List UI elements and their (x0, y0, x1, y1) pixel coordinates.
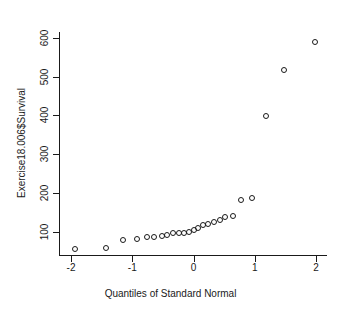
y-tick-label: 300 (39, 146, 50, 163)
data-point (103, 245, 109, 251)
data-point (120, 237, 126, 243)
y-tick-label: 400 (39, 107, 50, 124)
data-point (144, 234, 150, 240)
y-tick-label: 200 (39, 185, 50, 202)
x-tick-label: -1 (128, 262, 137, 273)
data-point (312, 39, 318, 45)
data-point (222, 214, 228, 220)
x-axis-title: Quantiles of Standard Normal (0, 288, 341, 299)
y-tick-mark (53, 115, 59, 116)
x-tick-label: 2 (313, 262, 319, 273)
data-point (164, 232, 170, 238)
qq-plot-figure: 100200300400500600 -2-1012 Exercise18.00… (0, 0, 341, 313)
y-tick-mark (53, 38, 59, 39)
y-axis-line (59, 32, 60, 256)
y-axis-title: Exercise18.006$Survival (16, 88, 27, 198)
y-tick-label: 600 (39, 29, 50, 46)
data-point (230, 213, 236, 219)
y-tick-label: 500 (39, 68, 50, 85)
data-point (151, 234, 157, 240)
y-tick-mark (53, 193, 59, 194)
y-tick-mark (53, 77, 59, 78)
data-point (134, 236, 140, 242)
y-tick-mark (53, 154, 59, 155)
data-point (249, 195, 255, 201)
x-tick-label: -2 (67, 262, 76, 273)
data-point (211, 219, 217, 225)
data-point (281, 67, 287, 73)
x-tick-label: 1 (252, 262, 258, 273)
y-tick-label: 100 (39, 223, 50, 240)
data-point (72, 246, 78, 252)
x-tick-label: 0 (191, 262, 197, 273)
data-point (238, 197, 244, 203)
y-tick-mark (53, 232, 59, 233)
data-point (263, 113, 269, 119)
